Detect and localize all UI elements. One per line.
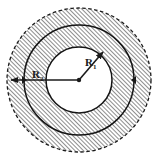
figure-container: R 1 R 2 [0, 0, 159, 160]
annulus-diagram: R 1 R 2 [0, 0, 159, 160]
center-point [77, 78, 81, 82]
radius-r1-label-subscript: 1 [93, 63, 97, 71]
radius-r2-label-subscript: 2 [40, 75, 44, 83]
